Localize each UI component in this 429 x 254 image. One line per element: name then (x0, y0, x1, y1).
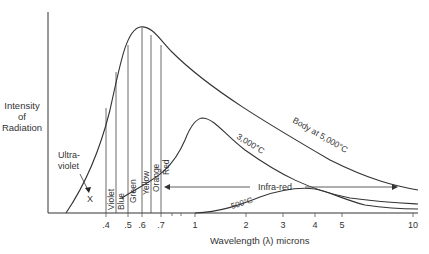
x-marker: X (87, 194, 93, 204)
tick-label: 4 (312, 220, 317, 230)
ultraviolet-label-line1: Ultra- (58, 150, 80, 160)
tick-label: .5 (124, 220, 132, 230)
curve-label-500c: 500°C (230, 195, 254, 211)
tick-label: 10 (408, 220, 418, 230)
blackbody-radiation-chart: .4 .5 .6 .7 1 2 3 4 5 10 Wavelength (λ) … (0, 0, 429, 254)
y-label-line: Radiation (2, 122, 42, 133)
x-tick-labels: .4 .5 .6 .7 1 2 3 4 5 10 (102, 220, 418, 230)
band-label-blue: Blue (116, 193, 126, 210)
band-label-orange: Orange (151, 163, 161, 192)
y-axis-label: Intensity of Radiation (2, 100, 42, 133)
tick-label: .4 (102, 220, 110, 230)
tick-label: 2 (243, 220, 248, 230)
band-label-yellow: Yellow (141, 170, 151, 195)
y-label-line: of (18, 111, 26, 122)
ultraviolet-label-line2: violet (58, 161, 80, 171)
tick-label: .7 (157, 220, 165, 230)
tick-label: .6 (138, 220, 146, 230)
band-label-green: Green (128, 179, 138, 203)
tick-label: 5 (339, 220, 344, 230)
tick-label: 1 (192, 220, 197, 230)
tick-label: 3 (280, 220, 285, 230)
x-axis-label: Wavelength (λ) microns (210, 235, 310, 246)
curve-5000c (66, 27, 418, 213)
infrared-label: Infra-red (258, 182, 292, 192)
x-ticks (106, 213, 413, 217)
curve-label-3000c: 3,000°C (235, 131, 266, 156)
ultraviolet-arrowhead (85, 187, 91, 193)
curve-500c (195, 188, 418, 213)
band-label-red: Red (161, 159, 171, 175)
y-label-line: Intensity (4, 100, 40, 111)
band-label-violet: Violet (106, 188, 116, 210)
curve-label-5000c: Body at 5,000°C (291, 115, 350, 155)
